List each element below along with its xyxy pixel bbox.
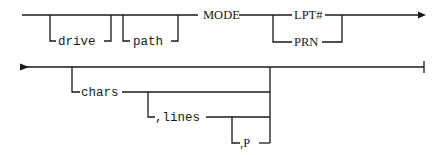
mode-syntax-diagram: drive path MODE LPT# PRN chars bbox=[0, 0, 444, 155]
drive-label: drive bbox=[58, 35, 96, 49]
mode-keyword: MODE bbox=[203, 8, 240, 22]
prn-label: PRN bbox=[294, 35, 318, 49]
chars-branch: chars bbox=[72, 67, 270, 100]
lines-label: ,lines bbox=[155, 111, 200, 125]
row-2: chars ,lines ,P bbox=[20, 61, 424, 150]
p-branch: ,P bbox=[232, 117, 270, 150]
drive-branch: drive bbox=[50, 15, 111, 49]
lpt-label: LPT# bbox=[294, 8, 323, 22]
device-choice: LPT# PRN bbox=[273, 8, 418, 49]
lines-branch: ,lines bbox=[148, 92, 270, 125]
p-label: ,P bbox=[240, 136, 250, 150]
path-label: path bbox=[133, 35, 163, 49]
path-branch: path bbox=[123, 15, 178, 49]
chars-label: chars bbox=[81, 86, 119, 100]
row-1: drive path MODE LPT# PRN bbox=[22, 8, 426, 49]
continue-arrow-icon bbox=[418, 12, 426, 19]
